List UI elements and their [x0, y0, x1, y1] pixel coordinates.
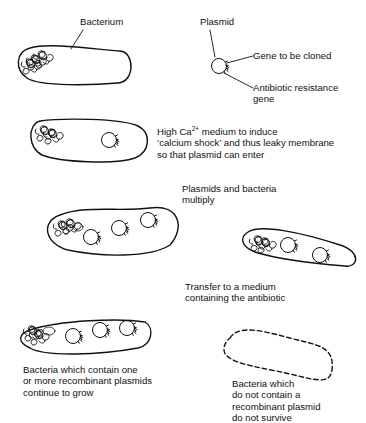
- label-bacterium: Bacterium: [80, 16, 123, 27]
- label-resistance-gene-line1: Antibiotic resistance: [253, 82, 338, 93]
- step3-line2: containing the antibiotic: [185, 292, 285, 303]
- label-step-calcium-shock: High Ca2+ medium to induce ‘calcium shoc…: [157, 126, 334, 160]
- die-line3: recombinant plasmid: [232, 401, 321, 412]
- bacterium-dead: [224, 330, 332, 380]
- survive-line3: continue to grow: [23, 387, 152, 398]
- step1-line1: High Ca2+ medium to induce: [157, 126, 334, 137]
- survive-line2: or more recombinant plasmids: [23, 375, 152, 386]
- bacterium-initial: [18, 46, 131, 85]
- step1-line3: so that plasmid can enter: [157, 149, 334, 160]
- die-line2: do not contain a: [232, 389, 321, 400]
- label-resistance-gene-line2: gene: [253, 93, 338, 104]
- label-plasmid: Plasmid: [200, 16, 234, 27]
- label-step-transfer: Transfer to a medium containing the anti…: [185, 281, 285, 304]
- step3-line1: Transfer to a medium: [185, 281, 285, 292]
- die-line1: Bacteria which: [232, 378, 321, 389]
- step2-line1: Plasmids and bacteria: [182, 183, 276, 194]
- label-step-multiply: Plasmids and bacteria multiply: [182, 183, 276, 206]
- bacterium-calcium-shock: [31, 119, 148, 162]
- step1-line2: ‘calcium shock’ and thus leaky membrane: [157, 137, 334, 148]
- diagram-canvas: [0, 0, 366, 423]
- gene-pointer: [227, 56, 253, 63]
- bacterium-multiplied-alt: [243, 229, 356, 266]
- step2-line2: multiply: [182, 194, 276, 205]
- bacterium-pointer: [71, 30, 83, 49]
- resistance-pointer: [224, 73, 253, 88]
- bacterium-multiplied: [48, 208, 179, 256]
- plasmid-isolated: [212, 59, 229, 74]
- plasmid-pointer: [210, 30, 215, 57]
- label-non-survivors: Bacteria which do not contain a recombin…: [232, 378, 321, 423]
- label-resistance-gene: Antibiotic resistance gene: [253, 82, 338, 105]
- bacterium-surviving: [21, 320, 151, 354]
- label-survivors: Bacteria which contain one or more recom…: [23, 364, 152, 398]
- label-gene-to-clone: Gene to be cloned: [253, 50, 331, 61]
- survive-line1: Bacteria which contain one: [23, 364, 152, 375]
- die-line4: do not survive: [232, 412, 321, 423]
